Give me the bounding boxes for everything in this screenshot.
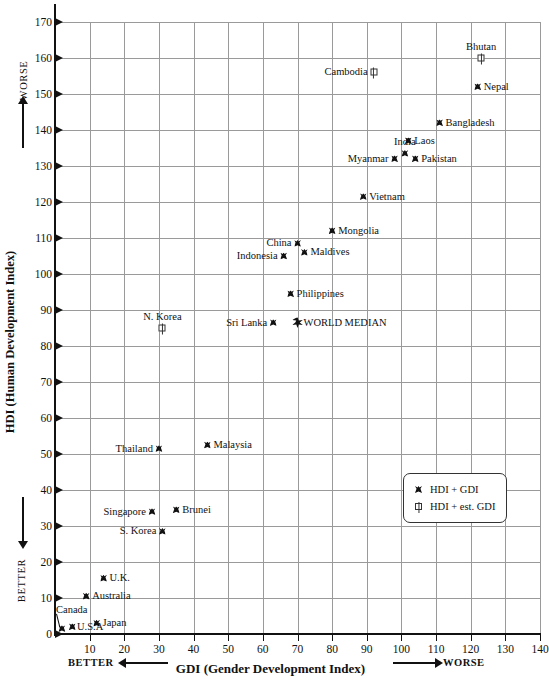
data-point-label: Pakistan — [421, 154, 457, 165]
grid-line-horizontal — [55, 454, 540, 455]
grid-line-horizontal — [55, 130, 540, 131]
y-tick-label: 120 — [35, 196, 52, 208]
x-tick-label: 40 — [188, 643, 200, 655]
data-point-label: Brunei — [182, 505, 211, 516]
x-tick-mark — [471, 635, 472, 641]
y-tick-label: 150 — [35, 88, 52, 100]
data-point-marker — [159, 325, 166, 332]
data-point-label: U.K. — [110, 573, 130, 584]
y-axis-line — [54, 4, 56, 636]
y-tick-mark — [55, 18, 63, 26]
x-tick-label: 30 — [153, 643, 165, 655]
x-axis-better-label: BETTER — [68, 657, 114, 668]
x-tick-label: 20 — [119, 643, 131, 655]
data-point-marker — [204, 442, 211, 449]
data-point-marker — [159, 528, 166, 535]
y-tick-label: 50 — [41, 448, 53, 460]
data-point-marker — [173, 506, 180, 513]
data-point-label: Nepal — [484, 82, 509, 93]
y-axis-better-label: BETTER — [16, 551, 27, 611]
y-axis-up-arrow — [22, 103, 24, 148]
grid-line-vertical — [367, 22, 368, 634]
grid-line-vertical — [401, 22, 402, 634]
y-tick-label: 170 — [35, 16, 52, 28]
y-tick-label: 90 — [41, 304, 53, 316]
x-tick-mark — [401, 635, 402, 641]
x-tick-mark — [505, 635, 506, 641]
data-point-marker — [478, 55, 485, 62]
x-tick-label: 50 — [222, 643, 234, 655]
y-tick-label: 140 — [35, 124, 52, 136]
data-point-marker — [280, 253, 287, 260]
legend-label: HDI + est. GDI — [430, 501, 495, 512]
y-tick-label: 0 — [46, 628, 52, 640]
legend-label: HDI + GDI — [430, 484, 479, 495]
y-tick-label: 160 — [35, 52, 52, 64]
data-point-marker — [301, 249, 308, 256]
data-point-marker — [360, 193, 367, 200]
grid-line-horizontal — [55, 310, 540, 311]
x-tick-mark — [194, 635, 195, 641]
x-tick-mark — [367, 635, 368, 641]
data-point-marker — [436, 119, 443, 126]
y-tick-mark — [55, 270, 63, 278]
grid-line-vertical — [436, 22, 437, 634]
data-point-marker — [149, 508, 156, 515]
data-point-marker — [412, 155, 419, 162]
y-tick-mark — [55, 522, 63, 530]
grid-line-vertical — [228, 22, 229, 634]
grid-line-horizontal — [55, 418, 540, 419]
y-tick-mark — [55, 306, 63, 314]
legend-item: HDI + GDI — [415, 481, 495, 498]
data-point-label: Mongolia — [338, 226, 379, 237]
y-tick-mark — [55, 90, 63, 98]
x-tick-mark — [90, 635, 91, 641]
legend-marker-open-icon — [415, 503, 422, 510]
grid-line-horizontal — [55, 202, 540, 203]
data-point-label: China — [266, 238, 291, 249]
grid-line-vertical — [90, 22, 91, 634]
grid-line-horizontal — [55, 166, 540, 167]
grid-line-vertical — [471, 22, 472, 634]
y-tick-mark — [55, 342, 63, 350]
grid-line-horizontal — [55, 346, 540, 347]
data-point-label: U.S.A — [77, 622, 103, 633]
x-axis-worse-label: WORSE — [443, 657, 485, 668]
grid-line-horizontal — [55, 94, 540, 95]
x-tick-label: 130 — [497, 643, 514, 655]
legend: HDI + GDI HDI + est. GDI — [403, 473, 507, 523]
y-tick-mark — [55, 54, 63, 62]
x-tick-label: 70 — [292, 643, 304, 655]
y-tick-mark — [55, 198, 63, 206]
legend-marker-filled-icon — [415, 486, 422, 493]
data-point-label: Myanmar — [348, 154, 389, 165]
grid-line-vertical — [505, 22, 506, 634]
data-point-label: Sri Lanka — [226, 317, 267, 328]
y-tick-mark — [55, 162, 63, 170]
y-tick-label: 70 — [41, 376, 53, 388]
data-point-label: WORLD MEDIAN — [304, 317, 387, 328]
x-tick-label: 120 — [462, 643, 479, 655]
data-point-label: Laos — [414, 136, 434, 147]
data-point-label: Vietnam — [369, 191, 405, 202]
x-tick-mark — [159, 635, 160, 641]
y-tick-label: 130 — [35, 160, 52, 172]
plot-area: NepalBangladeshLaosIndiaMyanmarPakistanV… — [55, 22, 540, 634]
x-tick-mark — [228, 635, 229, 641]
data-point-marker — [391, 155, 398, 162]
y-tick-mark — [55, 486, 63, 494]
x-tick-mark — [436, 635, 437, 641]
y-axis-down-arrow — [22, 497, 24, 542]
y-tick-mark — [55, 414, 63, 422]
y-tick-mark — [55, 126, 63, 134]
data-point-marker — [292, 317, 303, 328]
data-point-marker — [401, 150, 408, 157]
y-tick-mark — [55, 630, 63, 638]
y-tick-label: 110 — [35, 232, 52, 244]
data-point-marker — [100, 575, 107, 582]
data-point-label: S. Korea — [120, 526, 157, 537]
grid-line-horizontal — [55, 238, 540, 239]
y-tick-mark — [55, 450, 63, 458]
data-point-label: Thailand — [116, 443, 153, 454]
